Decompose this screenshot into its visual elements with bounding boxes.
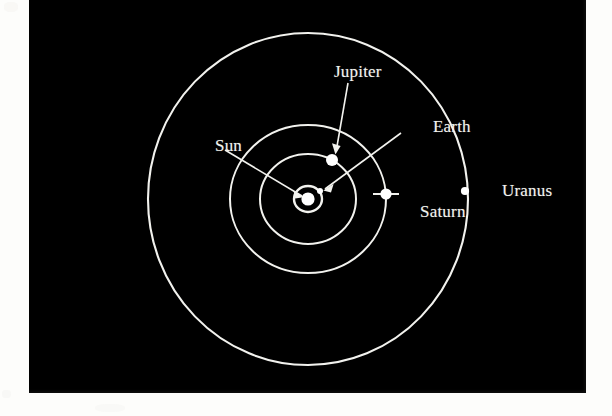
label-sun: Sun (215, 137, 242, 154)
photographic-plate: Jupiter Earth Sun Saturn Uranus (29, 0, 586, 393)
body-sun (301, 192, 314, 205)
label-uranus: Uranus (502, 182, 552, 199)
body-uranus (461, 187, 469, 195)
body-saturn (380, 188, 391, 199)
screenshot-canvas: Jupiter Earth Sun Saturn Uranus (0, 0, 612, 416)
scan-artifact-bottom-center (95, 404, 125, 412)
scan-artifact-top-left (4, 2, 18, 12)
leader-arrowhead-jupiter (332, 143, 341, 154)
label-earth: Earth (433, 118, 471, 135)
body-jupiter (326, 154, 338, 166)
label-jupiter: Jupiter (334, 63, 382, 80)
scan-artifact-bottom-left (2, 390, 11, 398)
body-earth (317, 188, 323, 194)
leader-line-jupiter (336, 83, 348, 152)
label-saturn: Saturn (420, 203, 466, 220)
